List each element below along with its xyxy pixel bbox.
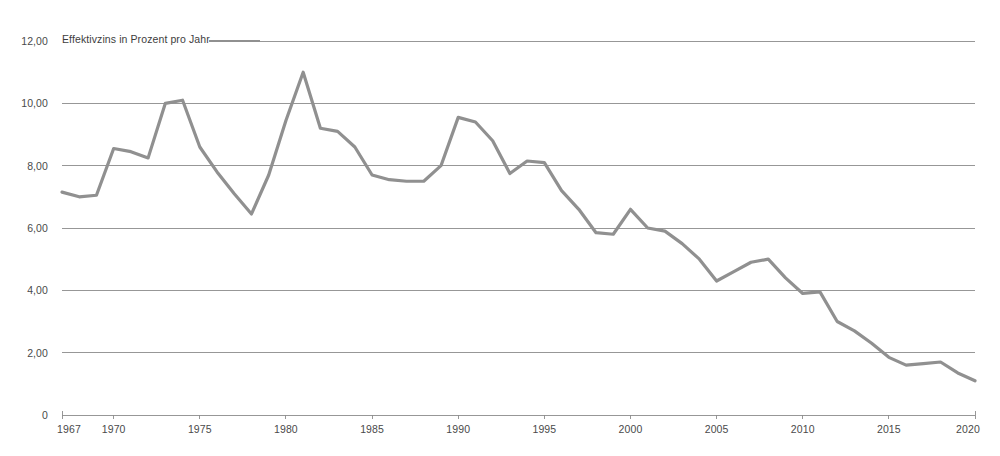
data-line-group [62,72,975,381]
x-axis-tick-label: 2005 [697,423,737,435]
line-chart-plot [0,0,1000,456]
x-axis-tick-label: 1970 [94,423,134,435]
x-axis-tick-label: 2015 [869,423,909,435]
x-axis-tick-label: 1990 [438,423,478,435]
x-axis-tick-label: 1995 [524,423,564,435]
y-axis-tick-label: 8,00 [0,160,48,172]
series-legend-label: Effektivzins in Prozent pro Jahr [62,33,210,45]
gridlines-group [62,41,975,353]
chart-container: 02,004,006,008,0010,0012,00 196719701975… [0,0,1000,456]
x-axis-tick-label: 2020 [948,423,988,435]
y-axis-tick-label: 2,00 [0,347,48,359]
y-axis-tick-label: 12,00 [0,35,48,47]
y-axis-tick-label: 0 [0,409,48,421]
x-axis-tick-label: 2000 [610,423,650,435]
x-axis-tick-label: 1985 [352,423,392,435]
x-axis-tick-label: 1967 [49,423,89,435]
x-axis-tick-label: 2010 [783,423,823,435]
y-axis-tick-label: 10,00 [0,97,48,109]
x-axis-tick-label: 1980 [266,423,306,435]
y-axis-tick-label: 6,00 [0,222,48,234]
x-axis-tick-label: 1975 [180,423,220,435]
y-axis-tick-label: 4,00 [0,284,48,296]
